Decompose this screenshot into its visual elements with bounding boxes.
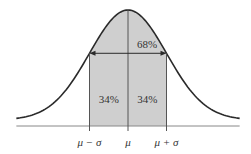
label-34-percent-right: 34%: [137, 93, 157, 105]
normal-distribution-diagram: 68% 34% 34% μ − σ μ μ + σ: [0, 0, 251, 154]
label-34-percent-left: 34%: [99, 93, 119, 105]
tick-label-mu-minus-sigma: μ − σ: [77, 136, 102, 148]
label-68-percent: 68%: [137, 38, 157, 50]
tick-label-mu-plus-sigma: μ + σ: [154, 136, 179, 148]
tick-label-mu: μ: [124, 136, 131, 148]
